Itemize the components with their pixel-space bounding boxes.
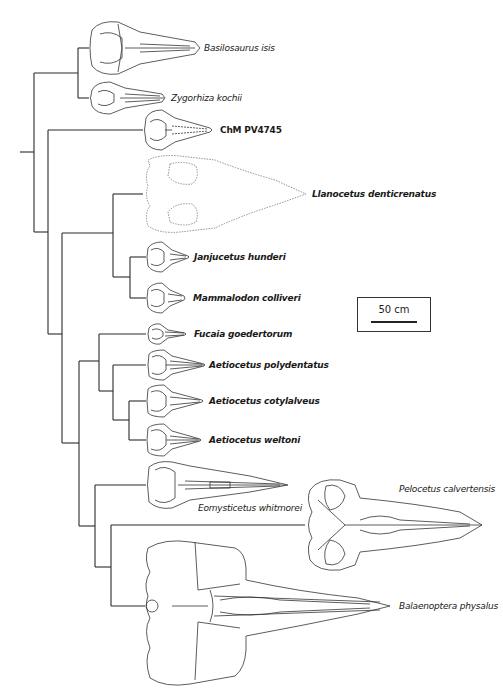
taxon-label-chm-pv4745: ChM PV4745 bbox=[220, 126, 282, 135]
scale-bar-box: 50 cm bbox=[357, 297, 431, 332]
taxon-label-llanocetus-denticrenatus: Llanocetus denticrenatus bbox=[312, 190, 436, 199]
taxon-label-balaenoptera-physalus: Balaenoptera physalus bbox=[399, 602, 498, 611]
tree-and-skulls bbox=[0, 0, 503, 693]
skull-chm-pv4745 bbox=[145, 110, 213, 150]
taxon-label-basilosaurus-isis: Basilosaurus isis bbox=[204, 44, 275, 53]
scale-bar-line bbox=[371, 321, 417, 323]
taxon-label-aetiocetus-weltoni: Aetiocetus weltoni bbox=[209, 436, 300, 445]
scale-bar-label: 50 cm bbox=[358, 304, 430, 315]
skull-zygorhiza-kochii bbox=[91, 82, 166, 114]
skull-llanocetus-denticrenatus bbox=[146, 156, 306, 233]
skull-eomysticetus-whitmorei bbox=[148, 462, 289, 509]
skull-fucaia-goedertorum bbox=[148, 324, 186, 344]
skull-aetiocetus-cotylalveus bbox=[147, 385, 203, 417]
taxon-label-aetiocetus-polydentatus: Aetiocetus polydentatus bbox=[209, 361, 329, 370]
taxon-label-zygorhiza-kochii: Zygorhiza kochii bbox=[171, 94, 242, 103]
phylogenetic-tree-figure: Basilosaurus isis Zygorhiza kochii ChM P… bbox=[0, 0, 503, 693]
taxon-label-pelocetus-calvertensis: Pelocetus calvertensis bbox=[399, 485, 495, 494]
skull-janjucetus-hunderi bbox=[147, 242, 189, 272]
skull-aetiocetus-polydentatus bbox=[148, 350, 205, 380]
skull-mammalodon-colliveri bbox=[147, 283, 185, 313]
taxon-label-aetiocetus-cotylalveus: Aetiocetus cotylalveus bbox=[209, 397, 320, 406]
skull-aetiocetus-weltoni bbox=[147, 424, 201, 456]
taxon-label-mammalodon-colliveri: Mammalodon colliveri bbox=[193, 294, 301, 303]
skull-basilosaurus-isis bbox=[90, 22, 200, 75]
taxon-label-fucaia-goedertorum: Fucaia goedertorum bbox=[194, 330, 292, 339]
taxon-label-eomysticetus-whitmorei: Eomysticetus whitmorei bbox=[198, 504, 302, 513]
skull-balaenoptera-physalus bbox=[146, 541, 390, 685]
taxon-label-janjucetus-hunderi: Janjucetus hunderi bbox=[194, 253, 286, 262]
